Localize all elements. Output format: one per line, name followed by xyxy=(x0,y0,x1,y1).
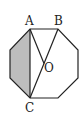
label-b: B xyxy=(54,14,63,28)
label-o: O xyxy=(44,61,54,75)
label-c: C xyxy=(25,101,34,115)
octagon-diagram: A B O C xyxy=(0,0,82,116)
segment-ao xyxy=(30,29,44,64)
label-a: A xyxy=(24,14,34,28)
